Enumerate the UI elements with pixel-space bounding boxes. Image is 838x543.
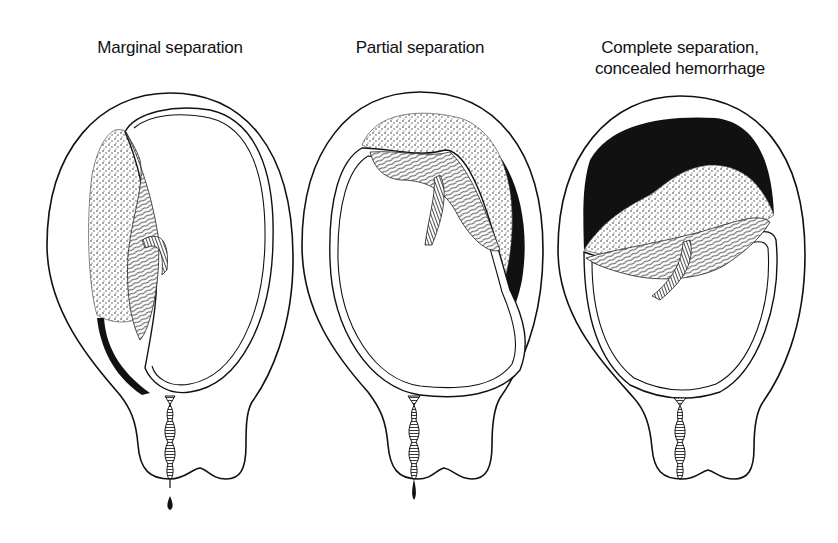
uterus-marginal	[47, 93, 293, 510]
uterus-partial	[302, 92, 543, 500]
blood-drop	[412, 479, 416, 500]
placental-abruption-diagram	[0, 0, 838, 543]
uterus-complete	[558, 96, 805, 479]
